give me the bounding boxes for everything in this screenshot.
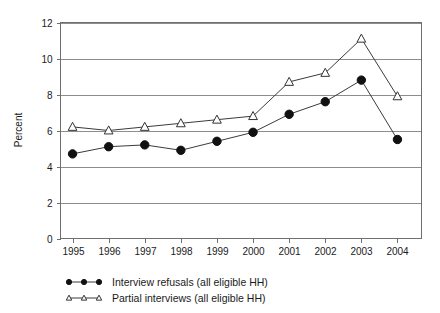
data-point-filled-circle — [81, 279, 86, 284]
data-point-filled-circle — [285, 110, 293, 118]
y-tick-label: 2 — [47, 198, 53, 209]
x-tick-label: 1995 — [62, 246, 85, 257]
data-point-filled-circle — [321, 98, 329, 106]
y-tick-label: 0 — [47, 234, 53, 245]
data-point-filled-circle — [357, 76, 365, 84]
y-tick-label: 12 — [41, 18, 53, 29]
data-point-filled-circle — [104, 143, 112, 151]
data-point-open-triangle — [66, 295, 71, 300]
x-tick-label: 1999 — [206, 246, 229, 257]
x-tick-label: 2001 — [278, 246, 301, 257]
series-1 — [68, 76, 401, 158]
plot-frame — [61, 23, 422, 239]
legend-label: Interview refusals (all eligible HH) — [112, 276, 268, 288]
series-2 — [68, 34, 402, 134]
series-line — [73, 39, 398, 131]
x-tick-label: 2000 — [242, 246, 265, 257]
data-point-filled-circle — [213, 137, 221, 145]
y-tick-label: 8 — [47, 90, 53, 101]
data-point-filled-circle — [177, 146, 185, 154]
x-tick-label: 1997 — [134, 246, 157, 257]
data-series — [68, 34, 402, 158]
legend-item[interactable]: Partial interviews (all eligible HH) — [66, 292, 265, 304]
data-point-filled-circle — [96, 279, 101, 284]
legend-item[interactable]: Interview refusals (all eligible HH) — [66, 276, 267, 288]
y-axis-title: Percent — [13, 113, 24, 148]
x-tick-label: 2004 — [386, 246, 409, 257]
y-tick-label: 10 — [41, 54, 53, 65]
data-point-filled-circle — [141, 141, 149, 149]
data-point-filled-circle — [66, 279, 71, 284]
data-point-filled-circle — [68, 150, 76, 158]
data-point-open-triangle — [357, 34, 366, 42]
data-point-filled-circle — [249, 128, 257, 136]
y-axis-ticks: 024681012 — [41, 18, 60, 245]
x-tick-label: 2002 — [314, 246, 337, 257]
series-line — [73, 80, 398, 154]
line-chart: 024681012 199519961997199819992000200120… — [0, 0, 440, 313]
x-tick-label: 1998 — [170, 246, 193, 257]
x-axis-ticks: 1995199619971998199920002001200220032004 — [62, 239, 409, 257]
y-tick-label: 4 — [47, 162, 53, 173]
data-point-open-triangle — [96, 295, 101, 300]
chart-legend: Interview refusals (all eligible HH)Part… — [66, 276, 268, 304]
data-point-open-triangle — [68, 122, 77, 130]
chart-container: 024681012 199519961997199819992000200120… — [0, 0, 440, 313]
data-point-open-triangle — [81, 295, 86, 300]
data-point-filled-circle — [393, 135, 401, 143]
y-tick-label: 6 — [47, 126, 53, 137]
gridlines — [61, 24, 422, 204]
x-tick-label: 2003 — [350, 246, 373, 257]
legend-label: Partial interviews (all eligible HH) — [112, 292, 265, 304]
x-tick-label: 1996 — [98, 246, 121, 257]
